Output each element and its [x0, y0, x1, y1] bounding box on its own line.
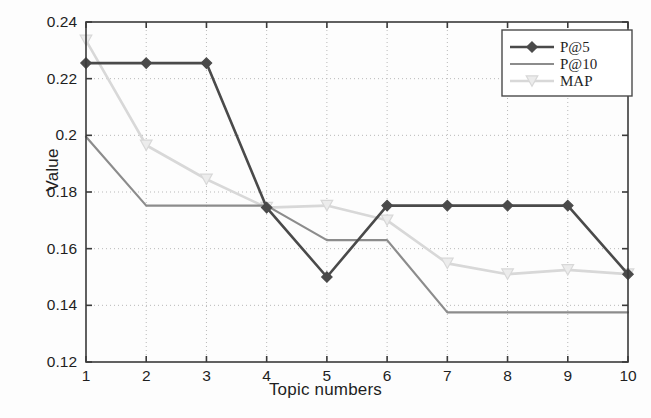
data-point-marker	[201, 174, 213, 184]
x-tick-label: 2	[142, 367, 151, 385]
legend-label: P@10	[560, 56, 597, 73]
x-tick-label: 6	[383, 367, 392, 385]
x-tick-label: 1	[82, 367, 91, 385]
x-tick-label: 4	[262, 367, 271, 385]
chart-figure: Value Topic numbers 0.120.140.160.180.20…	[0, 0, 651, 418]
x-tick-label: 5	[323, 367, 332, 385]
x-tick-label: 9	[563, 367, 572, 385]
y-tick-label: 0.24	[6, 13, 77, 31]
x-tick-label: 10	[619, 367, 636, 385]
y-tick-label: 0.18	[6, 183, 77, 201]
data-point-marker	[502, 200, 512, 210]
y-tick-label: 0.16	[6, 240, 77, 258]
x-tick-label: 8	[503, 367, 512, 385]
chart-series-p-at-10	[86, 137, 628, 313]
y-tick-label: 0.14	[6, 296, 77, 314]
data-point-marker	[141, 58, 151, 68]
y-tick-label: 0.12	[6, 353, 77, 371]
line-chart-canvas	[0, 0, 651, 418]
x-tick-label: 3	[202, 367, 211, 385]
data-point-marker	[201, 58, 211, 68]
legend-label: P@5	[560, 39, 590, 56]
y-tick-label: 0.22	[6, 70, 77, 88]
data-point-marker	[442, 200, 452, 210]
legend-label: MAP	[560, 73, 593, 90]
x-tick-label: 7	[443, 367, 452, 385]
y-tick-label: 0.2	[6, 126, 77, 144]
